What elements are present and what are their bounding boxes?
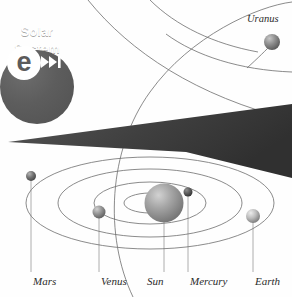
body-venus xyxy=(93,206,106,219)
body-earth xyxy=(246,209,260,223)
solar-system-illustration: e Solar System Mars Venus Sun Mercury Ea… xyxy=(0,0,292,297)
label-mercury: Mercury xyxy=(190,275,227,287)
skip-forward-icon xyxy=(41,55,63,69)
body-sun xyxy=(145,184,184,223)
label-earth: Earth xyxy=(255,275,280,287)
body-mercury xyxy=(184,188,193,197)
body-mars xyxy=(26,171,36,181)
label-mars: Mars xyxy=(33,275,56,287)
logo-line-1: Solar xyxy=(0,24,74,41)
label-sun: Sun xyxy=(147,275,164,287)
logo-e-letter: e xyxy=(7,46,41,80)
label-venus: Venus xyxy=(101,275,127,287)
label-uranus: Uranus xyxy=(247,13,279,24)
logo-e-mark: e xyxy=(7,46,41,80)
body-uranus xyxy=(264,34,280,50)
